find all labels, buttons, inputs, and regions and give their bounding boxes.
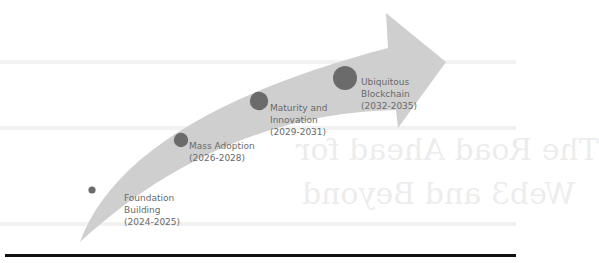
milestone-period: (2026-2028) (189, 152, 255, 164)
milestone-title: Maturity and (270, 102, 327, 114)
milestone-period: (2024-2025) (124, 216, 180, 228)
milestone-period: (2032-2035) (361, 100, 417, 112)
milestone-title: Blockchain (361, 88, 417, 100)
milestone-period: (2029-2031) (270, 126, 327, 138)
milestone-title: Ubiquitous (361, 76, 417, 88)
milestone-label-2: Mass Adoption (2026-2028) (189, 140, 255, 164)
milestone-title: Building (124, 204, 180, 216)
milestone-label-3: Maturity and Innovation (2029-2031) (270, 102, 327, 138)
milestone-dot-3 (250, 92, 268, 110)
milestone-label-4: Ubiquitous Blockchain (2032-2035) (361, 76, 417, 112)
milestone-title: Foundation (124, 192, 180, 204)
milestone-dot-4 (333, 66, 357, 90)
milestone-title: Innovation (270, 114, 327, 126)
bottom-divider-rule (5, 254, 516, 257)
milestone-label-1: Foundation Building (2024-2025) (124, 192, 180, 228)
milestone-title: Mass Adoption (189, 140, 255, 152)
milestone-dot-2 (174, 133, 188, 147)
milestone-dot-1 (88, 186, 95, 193)
